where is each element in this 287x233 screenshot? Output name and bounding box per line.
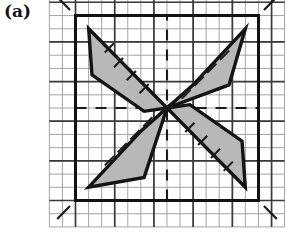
- corner-tick-bottom-left: [57, 206, 70, 219]
- corner-tick-bottom-right: [264, 206, 277, 219]
- figure-panel: (a): [0, 0, 287, 233]
- pinwheel-figure-plot: [0, 0, 287, 233]
